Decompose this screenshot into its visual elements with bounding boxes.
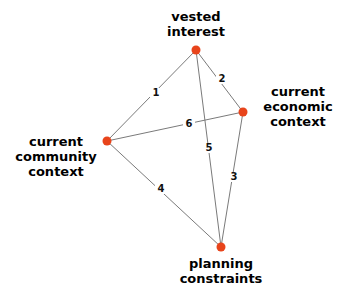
node-label-line: interest (141, 24, 251, 39)
edge-current-community-context-to-current-economic-context (107, 112, 243, 141)
node-label-current-economic-context: current economic context (252, 84, 344, 129)
edge-label-6: 6 (183, 119, 195, 129)
node-label-line: current (252, 84, 344, 99)
node-label-current-community-context: current community context (10, 134, 102, 179)
node-label-planning-constraints: planning constraints (156, 256, 286, 286)
edge-label-5: 5 (203, 143, 215, 153)
node-vested-interest[interactable] (192, 46, 201, 55)
node-label-line: vested (141, 9, 251, 24)
edge-label-3: 3 (228, 172, 240, 182)
node-current-economic-context[interactable] (239, 108, 248, 117)
node-label-line: context (10, 164, 102, 179)
node-label-line: community (10, 149, 102, 164)
edge-label-2: 2 (216, 74, 228, 84)
node-planning-constraints[interactable] (217, 243, 226, 252)
edge-label-1: 1 (150, 88, 162, 98)
node-label-line: context (252, 114, 344, 129)
node-current-community-context[interactable] (103, 137, 112, 146)
node-label-vested-interest: vested interest (141, 9, 251, 39)
node-label-line: current (10, 134, 102, 149)
node-label-line: planning (156, 256, 286, 271)
node-label-line: economic (252, 99, 344, 114)
edge-label-4: 4 (155, 184, 167, 194)
edge-current-community-context-to-planning-constraints (107, 141, 221, 247)
node-label-line: constraints (156, 271, 286, 286)
diagram-canvas: vested interest current economic context… (0, 0, 346, 297)
